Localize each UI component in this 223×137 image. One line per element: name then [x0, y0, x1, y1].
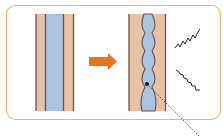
vessel-diagram	[0, 0, 223, 137]
normal-vessel	[36, 14, 74, 111]
constricted-vessel	[129, 14, 166, 111]
zigzag-upper-icon	[175, 29, 200, 48]
arrow-right-icon	[89, 53, 117, 70]
zigzag-lower-icon	[176, 70, 200, 90]
